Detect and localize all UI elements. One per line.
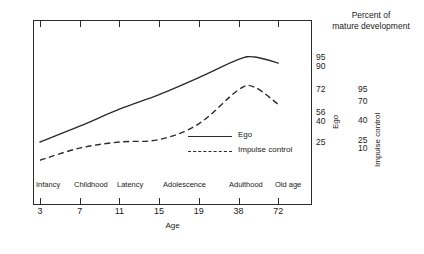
x-axis-tick-bottom-7	[80, 198, 81, 205]
legend-swatch-solid	[188, 136, 232, 137]
x-axis-tick-bottom-11	[119, 198, 120, 205]
x-tick-label-15: 15	[146, 206, 172, 216]
stage-label-adulthood: Adulthood	[229, 180, 263, 189]
legend-swatch-dashed	[188, 151, 232, 152]
chart-figure: 371115193872 InfancyChildhoodLatencyAdol…	[0, 0, 424, 254]
x-axis-tick-top-38	[239, 20, 240, 27]
ego-scale-value-90: 90	[316, 62, 325, 71]
x-axis-title: Age	[0, 221, 345, 230]
x-axis-tick-bottom-72	[278, 198, 279, 205]
impulse-scale-value-10: 10	[358, 144, 367, 153]
stage-label-latency: Latency	[117, 180, 143, 189]
x-tick-label-7: 7	[67, 206, 93, 216]
x-axis-tick-top-3	[40, 20, 41, 27]
x-tick-label-19: 19	[186, 206, 212, 216]
header-line-1: Percent of	[318, 10, 424, 21]
x-axis-tick-bottom-15	[159, 198, 160, 205]
ego-scale-value-40: 40	[316, 117, 325, 126]
x-axis-tick-top-11	[119, 20, 120, 27]
stage-label-infancy: Infancy	[36, 180, 60, 189]
x-axis-tick-top-7	[80, 20, 81, 27]
legend-label-impulse-control: Impulse control	[238, 145, 292, 154]
x-axis-tick-top-15	[159, 20, 160, 27]
chart-curves	[33, 20, 312, 205]
x-tick-label-72: 72	[265, 206, 291, 216]
ego-axis-label: Ego	[331, 115, 340, 129]
legend-label-ego: Ego	[238, 130, 252, 139]
impulse-control-axis-label: Impulse control	[373, 113, 382, 167]
impulse-scale-value-70: 70	[358, 97, 367, 106]
x-axis-tick-top-19	[199, 20, 200, 27]
x-axis-tick-top-72	[278, 20, 279, 27]
stage-label-adolescence: Adolescence	[163, 180, 206, 189]
x-axis-tick-bottom-19	[199, 198, 200, 205]
header-line-2: mature development	[318, 21, 424, 32]
impulse-scale-value-95: 95	[358, 85, 367, 94]
x-tick-label-11: 11	[106, 206, 132, 216]
x-axis-tick-bottom-3	[40, 198, 41, 205]
stage-label-old-age: Old age	[275, 180, 301, 189]
x-tick-label-38: 38	[226, 206, 252, 216]
chart-header-title: Percent of mature development	[318, 10, 424, 32]
x-axis-tick-bottom-38	[239, 198, 240, 205]
ego-scale-value-72: 72	[316, 85, 325, 94]
x-tick-label-3: 3	[27, 206, 53, 216]
stage-label-childhood: Childhood	[74, 180, 108, 189]
impulse-scale-value-40: 40	[358, 116, 367, 125]
ego-scale-value-25: 25	[316, 138, 325, 147]
